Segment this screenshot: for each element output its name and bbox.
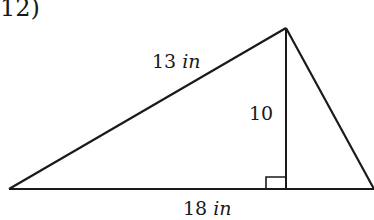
- base-value: 18: [183, 197, 207, 219]
- hypotenuse-label: 13 in: [152, 50, 201, 72]
- height-label: 10: [249, 102, 273, 124]
- base-unit: in: [213, 197, 231, 219]
- base-label: 18 in: [183, 197, 232, 219]
- right-angle-marker: [266, 177, 286, 189]
- left-side: [9, 28, 286, 189]
- hypotenuse-unit: in: [182, 50, 200, 72]
- problem-number: 12): [0, 0, 40, 22]
- triangle-figure: [0, 0, 374, 220]
- height-value: 10: [249, 102, 273, 124]
- right-side: [286, 28, 374, 189]
- hypotenuse-value: 13: [152, 50, 176, 72]
